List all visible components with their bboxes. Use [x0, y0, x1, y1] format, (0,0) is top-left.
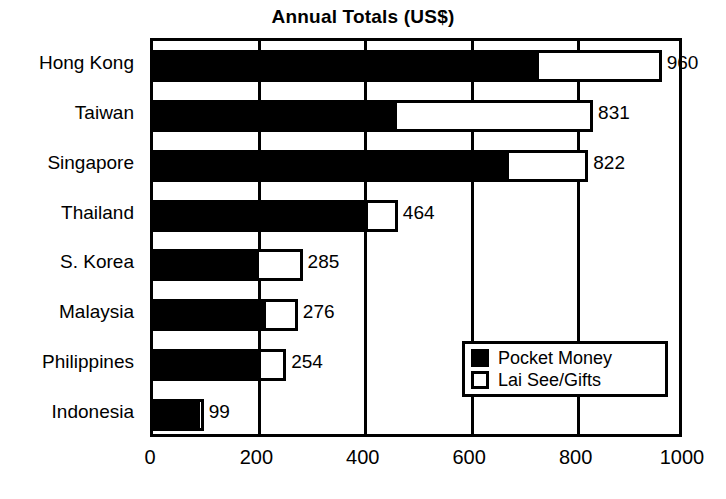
bar-segment-pocket-money	[153, 200, 367, 232]
bar-value-label: 960	[667, 47, 699, 79]
category-label-s-korea: S. Korea	[0, 246, 142, 278]
chart-legend: Pocket MoneyLai See/Gifts	[462, 341, 668, 397]
bar-segment-pocket-money	[153, 50, 538, 82]
category-label-thailand: Thailand	[0, 197, 142, 229]
bar-row	[153, 399, 204, 431]
legend-item-label: Pocket Money	[498, 348, 612, 368]
bar-row	[153, 150, 588, 182]
bar-segment-lai-see-gifts	[365, 200, 398, 232]
bar-value-label: 831	[598, 97, 630, 129]
legend-item: Lai See/Gifts	[471, 369, 659, 391]
bar-value-label: 99	[209, 396, 230, 428]
bar-segment-lai-see-gifts	[197, 399, 204, 431]
legend-item-label: Lai See/Gifts	[498, 370, 601, 390]
bar-segment-pocket-money	[153, 299, 265, 331]
category-label-singapore: Singapore	[0, 147, 142, 179]
bar-segment-lai-see-gifts	[506, 150, 588, 182]
x-tick-label-0: 0	[110, 446, 190, 469]
category-label-indonesia: Indonesia	[0, 396, 142, 428]
outline-white-swatch	[471, 371, 489, 389]
bar-segment-lai-see-gifts	[263, 299, 298, 331]
bar-row	[153, 299, 298, 331]
category-label-taiwan: Taiwan	[0, 97, 142, 129]
x-tick-label-200: 200	[216, 446, 296, 469]
bar-value-label: 822	[593, 147, 625, 179]
bar-value-label: 285	[308, 246, 340, 278]
bar-value-label: 276	[303, 296, 335, 328]
bar-segment-lai-see-gifts	[394, 100, 593, 132]
bar-segment-lai-see-gifts	[536, 50, 662, 82]
bar-row	[153, 349, 286, 381]
chart-title: Annual Totals (US$)	[0, 6, 726, 28]
bar-value-label: 254	[291, 346, 323, 378]
bar-row	[153, 200, 398, 232]
category-label-malaysia: Malaysia	[0, 296, 142, 328]
bar-segment-pocket-money	[153, 349, 260, 381]
category-label-hong-kong: Hong Kong	[0, 47, 142, 79]
bar-row	[153, 100, 593, 132]
bar-segment-pocket-money	[153, 150, 508, 182]
legend-item: Pocket Money	[471, 347, 659, 369]
bar-segment-pocket-money	[153, 399, 199, 431]
bar-value-label: 464	[403, 197, 435, 229]
bar-segment-pocket-money	[153, 100, 396, 132]
x-tick-label-600: 600	[429, 446, 509, 469]
filled-black-swatch	[471, 349, 489, 367]
category-label-philippines: Philippines	[0, 346, 142, 378]
bar-row	[153, 50, 662, 82]
bar-row	[153, 249, 303, 281]
bar-segment-lai-see-gifts	[258, 349, 286, 381]
annual-totals-bar-chart: Annual Totals (US$) Hong KongTaiwanSinga…	[0, 0, 726, 499]
bar-segment-lai-see-gifts	[256, 249, 303, 281]
x-tick-label-400: 400	[323, 446, 403, 469]
bar-segment-pocket-money	[153, 249, 258, 281]
x-tick-label-800: 800	[536, 446, 616, 469]
x-tick-label-1000: 1000	[642, 446, 722, 469]
